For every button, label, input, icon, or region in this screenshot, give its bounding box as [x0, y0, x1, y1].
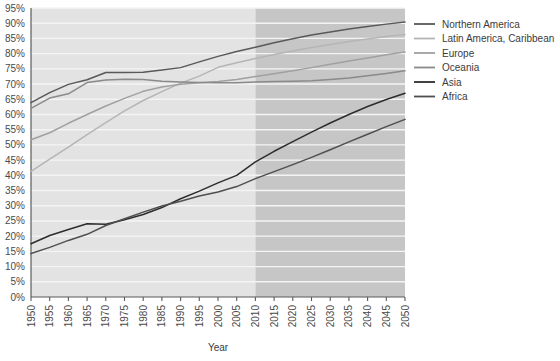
legend-item[interactable]	[411, 32, 556, 46]
y-tick-label: 55%	[5, 124, 25, 135]
legend-item[interactable]	[411, 90, 556, 104]
legend-item[interactable]	[411, 75, 556, 89]
x-tick-label: 2045	[381, 305, 392, 328]
y-tick-label: 45%	[5, 155, 25, 166]
x-tick-label: 1990	[175, 305, 186, 328]
y-tick-label: 25%	[5, 215, 25, 226]
y-tick-label: 0%	[11, 292, 26, 303]
y-tick-label: 15%	[5, 246, 25, 257]
x-tick-label: 2010	[250, 305, 261, 328]
chart-container: 0%5%10%15%20%25%30%35%40%45%50%55%60%65%…	[0, 0, 560, 361]
x-tick-label: 2025	[306, 305, 317, 328]
plot-background-historical	[31, 8, 255, 297]
x-tick-label: 1960	[63, 305, 74, 328]
x-tick-label: 1975	[119, 305, 130, 328]
x-tick-label: 1980	[138, 305, 149, 328]
x-tick-label: 1985	[156, 305, 167, 328]
y-tick-label: 10%	[5, 261, 25, 272]
x-tick-label: 2005	[231, 305, 242, 328]
x-tick-label: 2020	[287, 305, 298, 328]
legend-item[interactable]	[411, 46, 556, 60]
y-tick-label: 65%	[5, 94, 25, 105]
urbanization-line-chart: 0%5%10%15%20%25%30%35%40%45%50%55%60%65%…	[0, 0, 560, 361]
x-tick-label: 1965	[82, 305, 93, 328]
x-tick-label: 1995	[194, 305, 205, 328]
x-axis-ticks: 1950195519601965197019751980198519901995…	[26, 297, 411, 327]
y-tick-label: 70%	[5, 79, 25, 90]
y-tick-label: 60%	[5, 109, 25, 120]
y-tick-label: 90%	[5, 18, 25, 29]
x-tick-label: 1950	[26, 305, 37, 328]
x-axis-title: Year	[208, 342, 229, 353]
x-tick-label: 2040	[362, 305, 373, 328]
y-tick-label: 30%	[5, 200, 25, 211]
x-tick-label: 2050	[400, 305, 411, 328]
legend-item[interactable]	[411, 61, 556, 75]
y-tick-label: 40%	[5, 170, 25, 181]
y-tick-label: 20%	[5, 231, 25, 242]
x-tick-label: 2030	[325, 305, 336, 328]
legend: Northern AmericaLatin America, Caribbean…	[411, 17, 556, 104]
y-tick-label: 75%	[5, 63, 25, 74]
y-axis-ticks: 0%5%10%15%20%25%30%35%40%45%50%55%60%65%…	[5, 3, 25, 303]
x-tick-label: 1970	[100, 305, 111, 328]
y-tick-label: 5%	[11, 276, 26, 287]
y-tick-label: 95%	[5, 3, 25, 14]
x-tick-label: 1955	[44, 305, 55, 328]
y-tick-label: 50%	[5, 139, 25, 150]
legend-item[interactable]	[411, 17, 556, 31]
x-tick-label: 2015	[269, 305, 280, 328]
y-tick-label: 35%	[5, 185, 25, 196]
x-tick-label: 2035	[343, 305, 354, 328]
x-tick-label: 2000	[213, 305, 224, 328]
plot-background-projection	[255, 8, 405, 297]
y-tick-label: 80%	[5, 48, 25, 59]
y-tick-label: 85%	[5, 33, 25, 44]
